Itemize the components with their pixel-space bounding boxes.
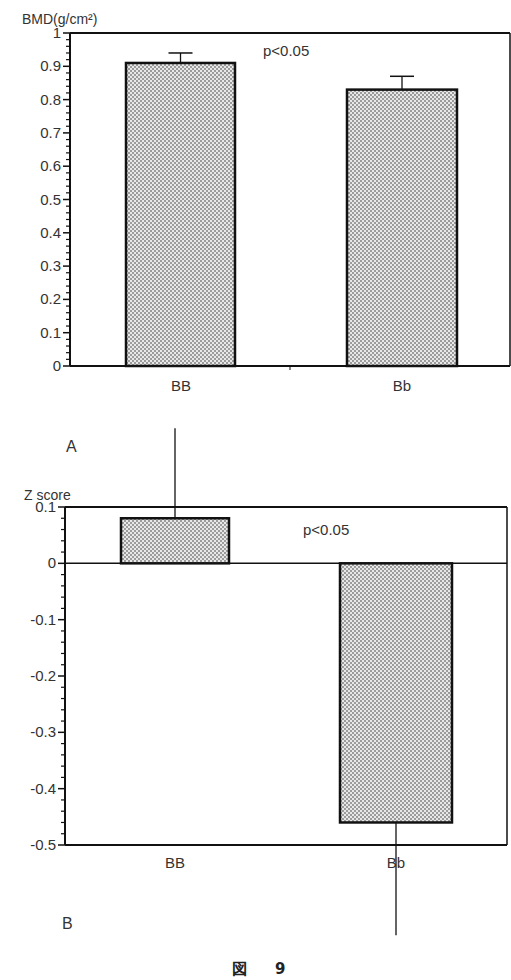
y-tick-label: 0.8 xyxy=(40,91,61,108)
y-tick-label: 0.6 xyxy=(40,157,61,174)
bars xyxy=(126,53,457,366)
y-tick-label: -0.5 xyxy=(30,836,56,853)
category-labels: BBBb xyxy=(165,854,405,871)
category-label-BB: BB xyxy=(165,854,185,871)
y-tick-label: 0.9 xyxy=(40,57,61,74)
figure-canvas: BMD(g/cm²) 00.10.20.30.40.50.60.70.80.91… xyxy=(0,0,511,980)
y-axis-ticks: 0.10-0.1-0.2-0.3-0.4-0.5 xyxy=(30,498,65,853)
bar-Bb xyxy=(340,563,452,822)
y-tick-label: -0.2 xyxy=(30,667,56,684)
y-tick-label: 0.2 xyxy=(40,290,61,307)
figure-caption-prefix: 図 xyxy=(232,960,247,978)
y-tick-label: -0.1 xyxy=(30,611,56,628)
y-tick-label: -0.3 xyxy=(30,723,56,740)
y-tick-label: 0.3 xyxy=(40,257,61,274)
category-label-Bb: Bb xyxy=(387,854,405,871)
y-tick-label: 0.4 xyxy=(40,224,61,241)
significance-annotation: p<0.05 xyxy=(263,42,309,59)
y-tick-label: 0.5 xyxy=(40,191,61,208)
y-tick-label: 1 xyxy=(53,24,61,41)
bar-BB xyxy=(126,63,235,366)
figure-caption-number: 9 xyxy=(275,960,285,978)
y-tick-label: 0 xyxy=(48,554,56,571)
category-labels: BBBb xyxy=(171,377,411,394)
y-tick-label: 0.1 xyxy=(35,498,56,515)
bar-BB xyxy=(121,518,229,563)
panel-label-a: A xyxy=(66,438,77,455)
y-tick-label: 0.1 xyxy=(40,324,61,341)
y-tick-label: 0.7 xyxy=(40,124,61,141)
y-axis-ticks: 00.10.20.30.40.50.60.70.80.91 xyxy=(40,24,70,374)
chart-panel-b: Z score 0.10-0.1-0.2-0.3-0.4-0.5 p<0.05 … xyxy=(24,428,507,935)
chart-panel-a: BMD(g/cm²) 00.10.20.30.40.50.60.70.80.91… xyxy=(22,11,510,455)
bar-Bb xyxy=(347,90,457,366)
panel-label-b: B xyxy=(62,915,73,932)
significance-annotation: p<0.05 xyxy=(303,521,349,538)
y-tick-label: -0.4 xyxy=(30,780,56,797)
y-tick-label: 0 xyxy=(53,357,61,374)
category-label-BB: BB xyxy=(171,377,191,394)
category-label-Bb: Bb xyxy=(393,377,411,394)
